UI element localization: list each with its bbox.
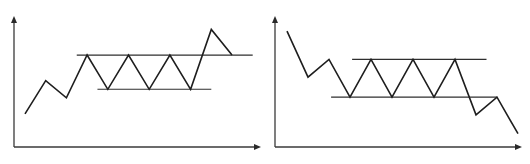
x-axis-arrow-icon [254, 144, 261, 150]
rectangle-patterns-diagram [0, 0, 530, 164]
price-line [25, 29, 232, 114]
breakdown-down-panel [272, 16, 522, 150]
price-line [287, 31, 518, 134]
breakout-up-panel [11, 16, 261, 150]
y-axis-arrow-icon [11, 16, 17, 23]
y-axis-arrow-icon [272, 16, 278, 23]
x-axis-arrow-icon [515, 144, 522, 150]
